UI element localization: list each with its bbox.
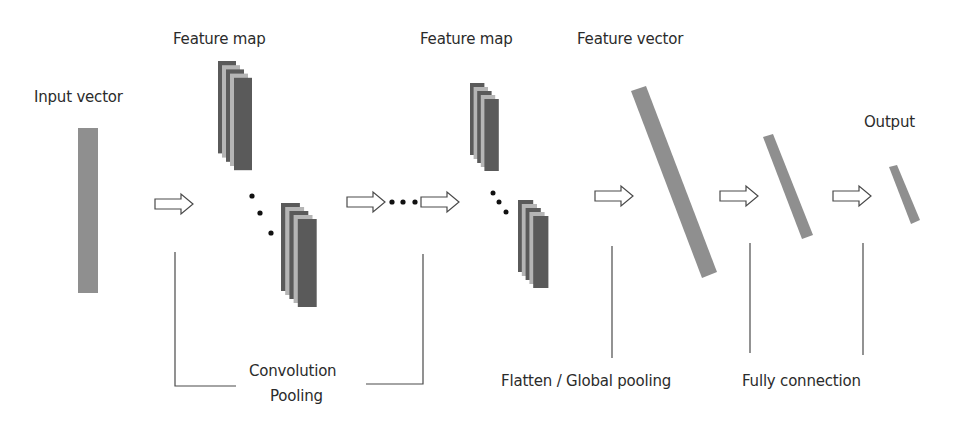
input-vector-bar (78, 128, 98, 293)
feature-vector-label: Feature vector (577, 30, 683, 48)
arrow-icon (347, 192, 385, 212)
feature-map-label-2: Feature map (420, 30, 513, 48)
feature-map-label-1: Feature map (173, 30, 266, 48)
arrow-icon (720, 186, 758, 206)
feature-map-stack-1a (218, 61, 252, 170)
feature-vector-bar (631, 86, 717, 278)
fully-connection-label: Fully connection (742, 372, 861, 390)
dense-layer-bar (763, 134, 813, 239)
ellipsis-dots-icon (249, 193, 273, 235)
ellipsis-dots-icon (491, 191, 509, 215)
output-bar (889, 165, 920, 224)
convolution-label: Convolution (249, 362, 336, 380)
input-vector-label: Input vector (34, 88, 123, 106)
feature-map-stack-2a (470, 83, 499, 171)
flatten-global-pooling-label: Flatten / Global pooling (501, 372, 671, 390)
pooling-label: Pooling (270, 387, 323, 405)
output-label: Output (864, 113, 915, 131)
feature-map-stack-1b (281, 203, 317, 307)
arrow-icon (155, 194, 193, 214)
feature-map-stack-2b (518, 200, 548, 288)
cnn-diagram (0, 0, 967, 426)
ellipsis-dots-icon (389, 199, 417, 204)
arrow-icon (833, 186, 871, 206)
arrow-icon (421, 192, 459, 212)
arrow-icon (595, 186, 633, 206)
